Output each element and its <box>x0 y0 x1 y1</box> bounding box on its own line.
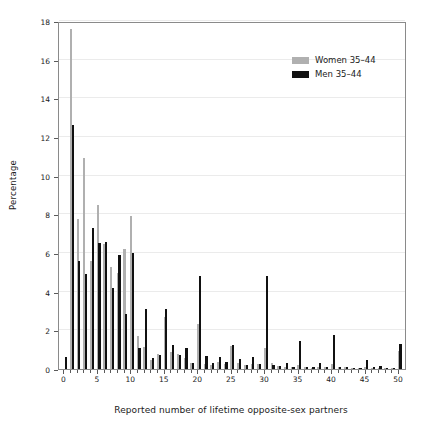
bar-men-24 <box>225 362 227 369</box>
bar-men-14 <box>159 355 161 370</box>
y-tick-mark <box>54 22 58 23</box>
x-tick-mark-minor <box>257 370 258 373</box>
bar-men-25 <box>232 345 234 369</box>
y-tick-label: 12 <box>10 134 50 143</box>
x-tick-mark-minor <box>90 370 91 373</box>
bar-men-28 <box>252 357 254 369</box>
x-tick-mark-minor <box>104 370 105 373</box>
x-tick-label: 40 <box>321 375 341 384</box>
x-tick-mark-minor <box>217 370 218 373</box>
x-tick-mark-minor <box>83 370 84 373</box>
y-tick-mark <box>54 138 58 139</box>
bar-men-16 <box>172 345 174 369</box>
bar-men-17 <box>179 355 181 370</box>
y-tick-mark <box>54 177 58 178</box>
bar-men-3 <box>85 274 87 369</box>
x-tick-mark-major <box>298 370 299 374</box>
x-tick-mark-minor <box>70 370 71 373</box>
y-tick-mark <box>54 215 58 216</box>
bar-men-20 <box>199 276 201 369</box>
bar-men-43 <box>353 368 355 369</box>
x-tick-mark-minor <box>391 370 392 373</box>
bar-men-40 <box>333 335 335 369</box>
y-tick-mark <box>54 331 58 332</box>
x-tick-mark-minor <box>177 370 178 373</box>
y-tick-label: 16 <box>10 56 50 65</box>
bar-men-26 <box>239 359 241 369</box>
y-tick-label: 0 <box>10 366 50 375</box>
x-tick-mark-major <box>231 370 232 374</box>
bar-men-1 <box>72 125 74 369</box>
x-tick-mark-major <box>398 370 399 374</box>
bar-men-9 <box>125 314 127 369</box>
x-tick-label: 0 <box>53 375 73 384</box>
bar-men-18 <box>185 348 187 369</box>
x-tick-mark-minor <box>204 370 205 373</box>
bar-men-29 <box>259 364 261 369</box>
legend-swatch-women-icon <box>292 57 309 64</box>
bar-men-12 <box>145 309 147 369</box>
x-tick-mark-major <box>164 370 165 374</box>
chart-figure: Percentage 024681012141618 Women 35–44 M… <box>0 0 430 442</box>
x-tick-mark-minor <box>184 370 185 373</box>
bar-men-22 <box>212 363 214 369</box>
bar-men-11 <box>138 348 140 369</box>
y-tick-mark <box>54 370 58 371</box>
x-tick-mark-major <box>63 370 64 374</box>
bar-men-46 <box>373 367 375 369</box>
y-tick-label: 2 <box>10 327 50 336</box>
x-tick-label: 20 <box>187 375 207 384</box>
y-tick-mark <box>54 254 58 255</box>
x-tick-mark-minor <box>157 370 158 373</box>
bar-men-32 <box>279 366 281 369</box>
x-tick-mark-major <box>331 370 332 374</box>
bar-men-45 <box>366 360 368 369</box>
bar-men-44 <box>359 368 361 369</box>
bar-men-23 <box>219 357 221 369</box>
y-tick-label: 4 <box>10 288 50 297</box>
x-tick-mark-major <box>197 370 198 374</box>
bar-men-49 <box>393 368 395 369</box>
bar-men-21 <box>205 356 207 369</box>
bar-men-33 <box>286 363 288 369</box>
y-tick-label: 18 <box>10 18 50 27</box>
x-tick-mark-minor <box>371 370 372 373</box>
x-tick-mark-minor <box>271 370 272 373</box>
plot-area: Women 35–44 Men 35–44 <box>58 22 406 370</box>
x-tick-mark-minor <box>251 370 252 373</box>
bar-men-47 <box>379 366 381 369</box>
x-tick-label: 35 <box>288 375 308 384</box>
legend-item-men[interactable]: Men 35–44 <box>292 67 412 81</box>
y-tick-label: 14 <box>10 95 50 104</box>
x-tick-mark-minor <box>378 370 379 373</box>
bar-men-35 <box>299 341 301 369</box>
bar-men-8 <box>118 255 120 369</box>
bar-men-39 <box>326 367 328 369</box>
x-tick-mark-minor <box>150 370 151 373</box>
bar-men-15 <box>165 309 167 369</box>
y-tick-label: 10 <box>10 172 50 181</box>
y-tick-mark <box>54 293 58 294</box>
legend-item-women[interactable]: Women 35–44 <box>292 53 412 67</box>
x-tick-label: 5 <box>87 375 107 384</box>
y-tick-label: 6 <box>10 250 50 259</box>
bar-men-36 <box>306 367 308 369</box>
gridline <box>59 20 405 21</box>
bar-men-50 <box>399 344 401 369</box>
bar-men-37 <box>312 367 314 369</box>
bar-men-13 <box>152 358 154 369</box>
x-tick-label: 15 <box>154 375 174 384</box>
bar-men-5 <box>98 243 100 369</box>
x-tick-mark-minor <box>170 370 171 373</box>
x-tick-label: 10 <box>120 375 140 384</box>
x-tick-mark-minor <box>318 370 319 373</box>
x-tick-mark-major <box>97 370 98 374</box>
x-tick-mark-minor <box>224 370 225 373</box>
legend-label-men: Men 35–44 <box>315 67 362 81</box>
x-axis-title-text: Reported number of lifetime opposite-sex… <box>114 405 348 415</box>
x-tick-mark-minor <box>358 370 359 373</box>
x-axis-title: Reported number of lifetime opposite-sex… <box>56 405 406 415</box>
x-tick-mark-minor <box>244 370 245 373</box>
x-tick-mark-major <box>365 370 366 374</box>
x-tick-mark-minor <box>291 370 292 373</box>
